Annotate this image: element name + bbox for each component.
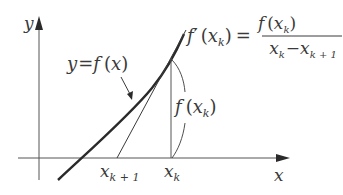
- svg-text:f(xk): f(xk): [173, 96, 217, 120]
- svg-text:f′(xk)=: f′(xk)=: [185, 25, 251, 49]
- tick-label-x-k: xk: [164, 161, 181, 184]
- svg-text:xk−xk + 1: xk−xk + 1: [269, 38, 337, 60]
- angle-arc: [172, 60, 185, 92]
- curve-pointer-arrow-icon: [127, 91, 133, 100]
- y-axis: [35, 16, 43, 180]
- y-axis-label: y: [23, 13, 34, 33]
- curve-label: y=f(x): [66, 53, 128, 74]
- y-axis-arrow-icon: [35, 16, 43, 30]
- x-axis-label: x: [274, 165, 284, 185]
- derivative-formula: f′(xk)= f(xk) xk−xk + 1: [185, 13, 342, 60]
- svg-text:y=f(x): y=f(x): [66, 53, 128, 74]
- newton-method-diagram: y x y=f(x) f′(xk)= f(xk) xk−xk + 1: [0, 0, 343, 195]
- tick-label-x-k-plus-1: xk + 1: [100, 161, 139, 184]
- height-label: f(xk): [173, 96, 217, 120]
- x-axis-arrow-icon: [276, 154, 290, 162]
- height-pointer: [172, 123, 185, 158]
- svg-text:f(xk): f(xk): [256, 13, 296, 35]
- x-axis: [18, 154, 290, 162]
- svg-text:xk + 1: xk + 1: [100, 161, 139, 184]
- svg-text:xk: xk: [164, 161, 181, 184]
